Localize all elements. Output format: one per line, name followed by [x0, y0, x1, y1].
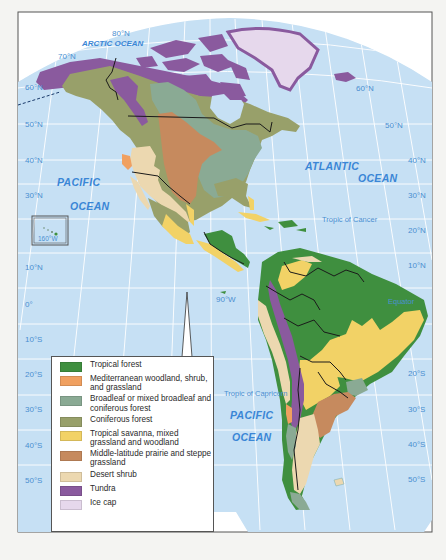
longitude-90w-label: 90°W	[216, 295, 236, 304]
svg-text:10°N: 10°N	[25, 263, 43, 272]
legend-item-coniferous: Coniferous forest	[52, 415, 213, 427]
legend-item-mediterranean: Mediterranean woodland, shrub, and grass…	[52, 374, 213, 392]
swatch-broadleaf	[60, 396, 82, 406]
svg-text:10°N: 10°N	[408, 261, 426, 270]
tropic-of-cancer-label: Tropic of Cancer	[322, 215, 378, 224]
swatch-coniferous	[60, 417, 82, 427]
svg-text:10°S: 10°S	[25, 335, 42, 344]
atlantic-label-1: ATLANTIC	[304, 160, 359, 172]
pacific-north-label-1: PACIFIC	[57, 176, 100, 188]
svg-text:70°N: 70°N	[58, 52, 76, 61]
svg-text:40°S: 40°S	[408, 440, 425, 449]
svg-text:0°: 0°	[25, 300, 33, 309]
svg-text:40°S: 40°S	[25, 441, 42, 450]
svg-text:20°S: 20°S	[25, 370, 42, 379]
tropic-of-capricorn-label: Tropic of Capricorn	[224, 389, 288, 398]
svg-text:40°N: 40°N	[408, 156, 426, 165]
arctic-ocean-label: ARCTIC OCEAN	[81, 39, 144, 48]
equator-label: Equator	[388, 297, 415, 306]
atlantic-label-2: OCEAN	[358, 172, 398, 184]
inset-longitude-label: 160°W	[38, 235, 58, 242]
svg-text:20°N: 20°N	[408, 226, 426, 235]
legend-item-tropical-forest: Tropical forest	[52, 360, 213, 372]
legend-item-prairie: Middle-latitude prairie and steppe grass…	[52, 449, 213, 467]
legend-item-savanna: Tropical savanna, mixed grassland and wo…	[52, 429, 213, 447]
swatch-tropical-forest	[60, 362, 82, 372]
swatch-ice-cap	[60, 500, 82, 510]
swatch-prairie	[60, 451, 82, 461]
svg-text:30°N: 30°N	[408, 191, 426, 200]
svg-text:50°S: 50°S	[408, 475, 425, 484]
legend-item-desert-shrub: Desert shrub	[52, 470, 213, 482]
svg-text:50°S: 50°S	[25, 476, 42, 485]
svg-text:50°N: 50°N	[385, 121, 403, 130]
pacific-south-label-2: OCEAN	[232, 431, 272, 443]
legend-item-broadleaf: Broadleaf or mixed broadleaf and conifer…	[52, 394, 213, 412]
svg-text:30°N: 30°N	[25, 191, 43, 200]
svg-text:60°N: 60°N	[356, 84, 374, 93]
svg-text:40°N: 40°N	[25, 156, 43, 165]
swatch-desert-shrub	[60, 472, 82, 482]
svg-text:30°S: 30°S	[25, 405, 42, 414]
svg-text:60°N: 60°N	[25, 83, 43, 92]
pacific-north-label-2: OCEAN	[70, 200, 110, 212]
legend: Tropical forest Mediterranean woodland, …	[51, 356, 214, 532]
svg-text:50°N: 50°N	[25, 120, 43, 129]
svg-text:30°S: 30°S	[408, 405, 425, 414]
legend-item-tundra: Tundra	[52, 484, 213, 496]
pacific-south-label-1: PACIFIC	[230, 409, 273, 421]
swatch-savanna	[60, 431, 82, 441]
svg-text:20°S: 20°S	[408, 369, 425, 378]
svg-text:80°N: 80°N	[112, 29, 130, 38]
swatch-mediterranean	[60, 376, 82, 386]
swatch-tundra	[60, 486, 82, 496]
legend-item-ice-cap: Ice cap	[52, 498, 213, 510]
